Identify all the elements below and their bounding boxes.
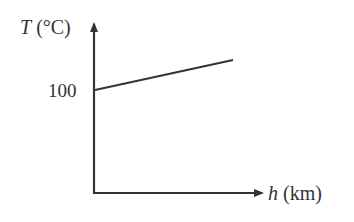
data-line [95,60,233,90]
chart: T (°C) 100 h (km) [0,0,354,222]
y-tick-100: 100 [48,80,77,101]
y-label: T (°C) [20,16,71,39]
x-label: h (km) [268,182,322,205]
